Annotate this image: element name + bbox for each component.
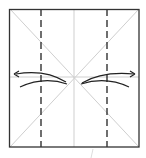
faint-mark: [91, 149, 93, 158]
right-fold-arrow-icon: [81, 71, 135, 87]
diagram-svg: [0, 0, 146, 158]
origami-diagram: [0, 0, 146, 158]
